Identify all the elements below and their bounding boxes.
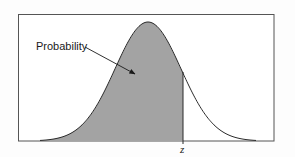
- probability-label: Probability: [36, 40, 88, 52]
- z-marker-label: z: [179, 143, 185, 155]
- normal-distribution-chart: Probability z: [0, 0, 295, 157]
